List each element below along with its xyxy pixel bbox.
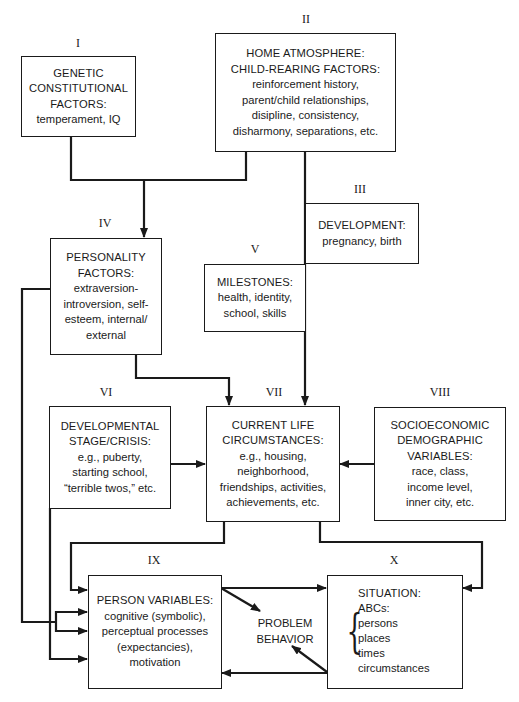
edge-IX-to-problem (221, 588, 260, 611)
body-line: places (358, 631, 430, 646)
node-situation: SITUATION: { ABCs: persons places times … (327, 575, 463, 689)
node-body: pregnancy, birth (322, 234, 401, 250)
node-title: SOCIOECONOMIC DEMOGRAPHIC VARIABLES: (391, 418, 490, 465)
title-line: GENETIC (29, 66, 128, 82)
numeral-X: X (390, 553, 399, 568)
body-line: e.g., housing, (220, 449, 326, 465)
node-body: health, identity, school, skills (218, 290, 292, 321)
numeral-V: V (251, 242, 260, 257)
title-line: DEVELOPMENT: (318, 218, 406, 234)
edge-X-to-problem (292, 646, 327, 672)
title-line: PERSONALITY (66, 250, 145, 266)
node-title: SITUATION: (358, 586, 421, 601)
node-genetic-constitutional-factors: GENETIC CONSTITUTIONAL FACTORS: temperam… (21, 56, 136, 137)
node-personality-factors: PERSONALITY FACTORS: extraversion- intro… (50, 238, 162, 355)
title-line: SOCIOECONOMIC (391, 418, 490, 434)
body-line: (expectancies), (102, 640, 208, 656)
title-line: STAGE/CRISIS: (61, 434, 160, 450)
title-line: CONSTITUTIONAL (29, 81, 128, 97)
node-body: extraversion- introversion, self- esteem… (63, 281, 148, 343)
numeral-IX: IX (148, 553, 161, 568)
body-line: neighborhood, (220, 464, 326, 480)
body-line: e.g., puberty, (64, 450, 156, 466)
title-line: FACTORS: (29, 97, 128, 113)
node-socioeconomic-demographic: SOCIOECONOMIC DEMOGRAPHIC VARIABLES: rac… (374, 407, 506, 521)
node-body: ABCs: persons places times circumstances (358, 601, 430, 676)
node-body: e.g., puberty, starting school, “terribl… (64, 450, 156, 497)
body-line: achievements, etc. (220, 495, 326, 511)
title-line: CHILD-REARING FACTORS: (231, 62, 380, 78)
problem-behavior-label: PROBLEM BEHAVIOR (242, 616, 328, 647)
node-title: HOME ATMOSPHERE: CHILD-REARING FACTORS: (231, 46, 380, 77)
body-line: cognitive (symbolic), (102, 609, 208, 625)
body-line: “terrible twos,” etc. (64, 481, 156, 497)
body-line: inner city, etc. (406, 495, 474, 511)
body-line: disipline, consistency, (233, 108, 378, 124)
node-developmental-stage-crisis: DEVELOPMENTAL STAGE/CRISIS: e.g., pubert… (49, 406, 171, 509)
body-line: race, class, (406, 464, 474, 480)
body-line: disharmony, separations, etc. (233, 124, 378, 140)
node-title: DEVELOPMENT: (318, 218, 406, 234)
body-line: reinforcement history, (233, 77, 378, 93)
node-title: PERSONALITY FACTORS: (66, 250, 145, 281)
body-line: starting school, (64, 465, 156, 481)
body-line: parent/child relationships, (233, 93, 378, 109)
edge-VI-to-IX (50, 508, 87, 659)
label-line: BEHAVIOR (242, 632, 328, 648)
body-line: motivation (102, 655, 208, 671)
title-line: VARIABLES: (391, 449, 490, 465)
label-line: PROBLEM (242, 616, 328, 632)
node-body: cognitive (symbolic), perceptual process… (102, 609, 208, 671)
numeral-IV: IV (99, 216, 112, 231)
edge-IV-to-VII (136, 354, 229, 405)
title-line: HOME ATMOSPHERE: (231, 46, 380, 62)
numeral-II: II (302, 12, 310, 27)
edge-IV-to-IX-fork-bottom (56, 622, 87, 631)
numeral-VI: VI (100, 385, 113, 400)
node-development: DEVELOPMENT: pregnancy, birth (305, 203, 419, 264)
title-line: CIRCUMSTANCES: (222, 433, 323, 449)
body-line: pregnancy, birth (322, 234, 401, 250)
node-body: temperament, IQ (37, 112, 121, 128)
node-body: reinforcement history, parent/child rela… (233, 77, 378, 139)
title-line: DEMOGRAPHIC (391, 433, 490, 449)
body-line: temperament, IQ (37, 112, 121, 128)
body-line: introversion, self- (63, 297, 148, 313)
body-line: ABCs: (358, 601, 430, 616)
numeral-VIII: VIII (430, 385, 451, 400)
node-milestones: MILESTONES: health, identity, school, sk… (204, 264, 306, 332)
numeral-III: III (354, 182, 366, 197)
node-title: GENETIC CONSTITUTIONAL FACTORS: (29, 66, 128, 113)
node-body: race, class, income level, inner city, e… (406, 464, 474, 511)
node-title: PERSON VARIABLES: (97, 593, 214, 609)
brace-icon: { (347, 608, 363, 654)
node-person-variables: PERSON VARIABLES: cognitive (symbolic), … (88, 575, 222, 689)
body-line: school, skills (218, 306, 292, 322)
node-title: DEVELOPMENTAL STAGE/CRISIS: (61, 419, 160, 450)
numeral-VII: VII (266, 385, 283, 400)
body-line: friendships, activities, (220, 480, 326, 496)
title-line: DEVELOPMENTAL (61, 419, 160, 435)
body-line: times (358, 646, 430, 661)
node-title: MILESTONES: (217, 275, 293, 291)
body-line: circumstances (358, 661, 430, 676)
node-title: CURRENT LIFE CIRCUMSTANCES: (222, 418, 323, 449)
title-line: SITUATION: (358, 586, 421, 601)
body-line: external (63, 328, 148, 344)
title-line: CURRENT LIFE (222, 418, 323, 434)
edge-IV-to-IX-fork-top (56, 612, 87, 622)
node-current-life-circumstances: CURRENT LIFE CIRCUMSTANCES: e.g., housin… (206, 406, 340, 522)
node-home-atmosphere: HOME ATMOSPHERE: CHILD-REARING FACTORS: … (215, 33, 396, 152)
body-line: persons (358, 616, 430, 631)
numeral-I: I (76, 36, 80, 51)
body-line: health, identity, (218, 290, 292, 306)
body-line: income level, (406, 480, 474, 496)
title-line: PERSON VARIABLES: (97, 593, 214, 609)
diagram-canvas: I GENETIC CONSTITUTIONAL FACTORS: temper… (0, 0, 519, 702)
title-line: MILESTONES: (217, 275, 293, 291)
title-line: FACTORS: (66, 266, 145, 282)
body-line: extraversion- (63, 281, 148, 297)
node-body: e.g., housing, neighborhood, friendships… (220, 449, 326, 511)
body-line: esteem, internal/ (63, 312, 148, 328)
body-line: perceptual processes (102, 624, 208, 640)
